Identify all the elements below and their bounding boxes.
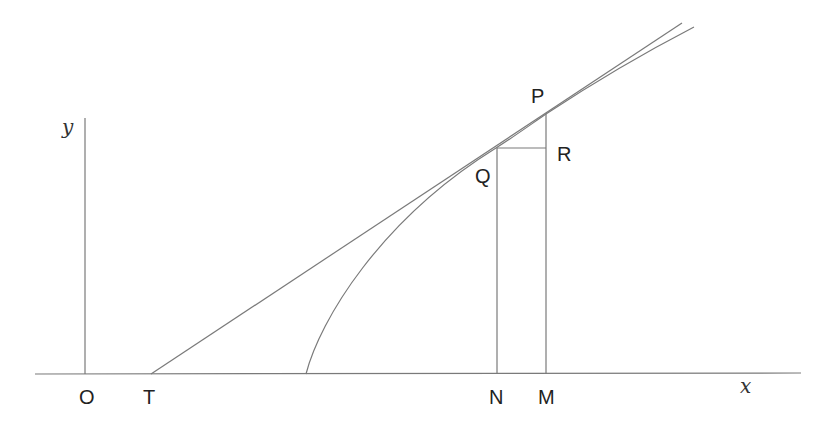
- point-q-label: Q: [475, 165, 491, 187]
- y-axis-label: y: [61, 115, 74, 139]
- geometry-diagram: y x O T N M P Q R: [0, 0, 831, 430]
- origin-label: O: [79, 386, 95, 408]
- point-r-label: R: [557, 143, 571, 165]
- tangent-line: [151, 23, 682, 374]
- x-axis-label: x: [740, 374, 751, 398]
- curve: [306, 27, 694, 374]
- point-t-label: T: [143, 386, 155, 408]
- point-m-label: M: [538, 386, 555, 408]
- x-axis: [35, 373, 801, 374]
- point-p-label: P: [531, 85, 544, 107]
- point-n-label: N: [489, 386, 503, 408]
